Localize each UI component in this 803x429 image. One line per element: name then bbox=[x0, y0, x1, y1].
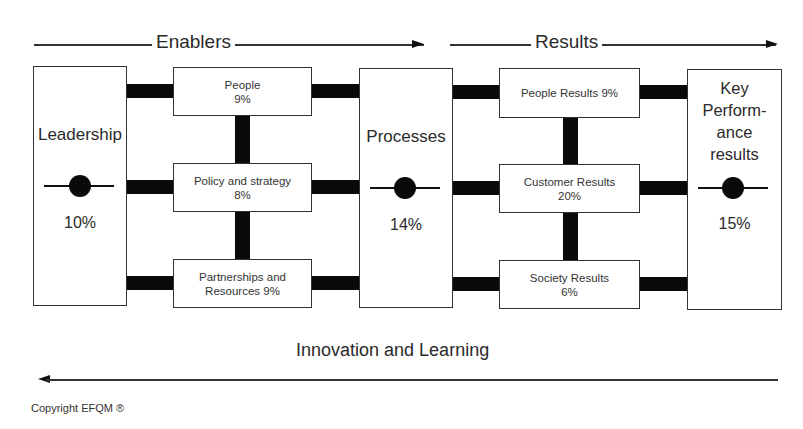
results-label: Results bbox=[531, 31, 602, 53]
connector-bar bbox=[451, 277, 501, 291]
processes-label: Processes bbox=[360, 127, 452, 147]
dial-dot-icon bbox=[722, 177, 744, 199]
customer-results-weight: 20% bbox=[558, 189, 581, 203]
people-label: People bbox=[225, 78, 261, 92]
policy-strategy-label: Policy and strategy bbox=[194, 174, 291, 188]
kpr-label-line: results bbox=[688, 143, 781, 165]
connector-bar bbox=[638, 85, 689, 99]
kpr-label-line: Perform- bbox=[688, 99, 781, 121]
results-arrow-line bbox=[450, 44, 776, 46]
connector-bar bbox=[638, 277, 689, 291]
partnerships-resources-label: Partnerships and bbox=[199, 270, 286, 284]
kpr-weight: 15% bbox=[688, 215, 781, 233]
society-results-label: Society Results bbox=[530, 271, 609, 285]
leadership-box: Leadership 10% bbox=[33, 66, 127, 306]
society-results-weight: 6% bbox=[561, 285, 578, 299]
results-arrowhead-icon bbox=[766, 40, 778, 48]
people-results-box: People Results 9% bbox=[499, 68, 640, 118]
enablers-arrowhead-icon bbox=[412, 40, 424, 48]
processes-weight: 14% bbox=[360, 216, 452, 234]
people-results-label: People Results 9% bbox=[521, 86, 618, 100]
customer-results-label: Customer Results bbox=[524, 175, 615, 189]
key-performance-results-label: Key Perform- ance results bbox=[688, 77, 781, 165]
connector-bar bbox=[451, 181, 501, 195]
customer-results-box: Customer Results 20% bbox=[499, 164, 640, 213]
connector-bar bbox=[310, 84, 361, 98]
feedback-arrow-line bbox=[46, 379, 778, 381]
connector-bar bbox=[310, 180, 361, 194]
connector-bar bbox=[310, 276, 361, 290]
connector-bar bbox=[638, 181, 689, 195]
connector-bar bbox=[125, 276, 175, 290]
connector-bar bbox=[125, 84, 175, 98]
dial-dot-icon bbox=[69, 175, 91, 197]
key-performance-results-box: Key Perform- ance results 15% bbox=[687, 69, 782, 310]
policy-strategy-box: Policy and strategy 8% bbox=[173, 163, 312, 212]
partnerships-resources-weight: Resources 9% bbox=[205, 284, 280, 298]
connector-bar bbox=[451, 85, 501, 99]
society-results-box: Society Results 6% bbox=[499, 260, 640, 309]
people-box: People 9% bbox=[173, 67, 312, 116]
leadership-label: Leadership bbox=[34, 125, 126, 145]
innovation-learning-label: Innovation and Learning bbox=[296, 340, 489, 361]
partnerships-resources-box: Partnerships and Resources 9% bbox=[173, 259, 312, 308]
policy-strategy-weight: 8% bbox=[234, 188, 251, 202]
connector-bar bbox=[125, 180, 175, 194]
people-weight: 9% bbox=[234, 92, 251, 106]
processes-box: Processes 14% bbox=[359, 68, 453, 308]
enablers-label: Enablers bbox=[152, 31, 235, 53]
kpr-label-line: ance bbox=[688, 121, 781, 143]
kpr-label-line: Key bbox=[688, 77, 781, 99]
dial-dot-icon bbox=[394, 177, 416, 199]
copyright-text: Copyright EFQM ® bbox=[31, 402, 124, 414]
leadership-weight: 10% bbox=[34, 214, 126, 232]
